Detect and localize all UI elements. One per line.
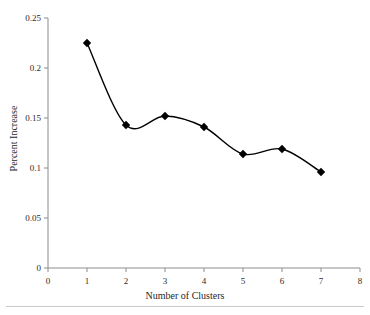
x-tick-label: 6 bbox=[270, 276, 294, 286]
series-line-percent-increase bbox=[87, 43, 321, 172]
y-tick-label: 0.15 bbox=[25, 113, 41, 123]
x-tick-label: 7 bbox=[309, 276, 333, 286]
y-axis-title: Percent Increase bbox=[8, 79, 19, 199]
x-tick-label: 2 bbox=[114, 276, 138, 286]
data-point-marker: 7, 0.096 bbox=[317, 168, 325, 176]
y-tick-label: 0.1 bbox=[30, 163, 41, 173]
y-tick-label: 0.05 bbox=[25, 213, 41, 223]
x-tick-label: 4 bbox=[192, 276, 216, 286]
data-point-marker: 4, 0.141 bbox=[200, 123, 208, 131]
line-chart-canvas: 1, 0.2252, 0.1433, 0.1524, 0.1415, 0.114… bbox=[0, 0, 370, 315]
x-tick-label: 1 bbox=[75, 276, 99, 286]
chart-figure: 1, 0.2252, 0.1433, 0.1524, 0.1415, 0.114… bbox=[0, 0, 370, 315]
x-tick-label: 8 bbox=[348, 276, 370, 286]
x-axis-ticks bbox=[48, 268, 360, 272]
x-tick-label: 5 bbox=[231, 276, 255, 286]
x-tick-label: 0 bbox=[36, 276, 60, 286]
y-axis-ticks bbox=[44, 18, 48, 268]
y-tick-label: 0.25 bbox=[25, 13, 41, 23]
y-tick-label: 0 bbox=[37, 263, 42, 273]
data-point-marker: 6, 0.119 bbox=[278, 145, 286, 153]
data-point-marker: 1, 0.225 bbox=[83, 39, 91, 47]
x-tick-label: 3 bbox=[153, 276, 177, 286]
data-point-marker: 5, 0.114 bbox=[239, 150, 247, 158]
y-tick-label: 0.2 bbox=[30, 63, 41, 73]
x-axis-title: Number of Clusters bbox=[0, 290, 370, 301]
data-point-marker: 3, 0.152 bbox=[161, 112, 169, 120]
bottom-divider bbox=[6, 306, 364, 307]
series-markers-percent-increase: 1, 0.2252, 0.1433, 0.1524, 0.1415, 0.114… bbox=[83, 39, 325, 176]
